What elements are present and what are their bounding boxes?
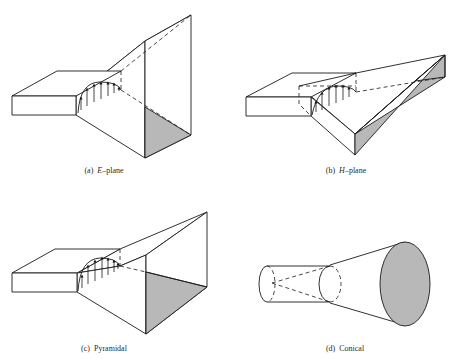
caption-pyramidal: (c) Pyramidal (81, 344, 127, 353)
waveguide-front (12, 96, 76, 115)
caption-text: Conical (339, 344, 364, 353)
caption-h-plane: (b) H–plane (326, 166, 366, 175)
caption-e-plane: (a) E–plane (84, 166, 123, 175)
e-plane-horn (12, 15, 191, 158)
caption-conical: (d) Conical (326, 344, 364, 353)
pyramidal-horn (12, 212, 207, 334)
waveguide-front (12, 273, 77, 292)
aperture-shaded (380, 242, 430, 326)
conical-horn (259, 242, 430, 326)
h-plane-horn (246, 55, 445, 155)
caption-letter: (b) (326, 166, 335, 175)
caption-text: Pyramidal (94, 344, 127, 353)
waveguide-end (259, 266, 267, 302)
caption-letter: (a) (84, 166, 93, 175)
caption-letter: (d) (326, 344, 335, 353)
caption-text: –plane (345, 166, 366, 175)
caption-letter: (c) (81, 344, 90, 353)
caption-text: –plane (102, 166, 123, 175)
horn-antennas-diagram (0, 0, 453, 359)
